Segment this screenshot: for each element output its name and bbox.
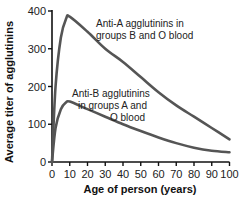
x-tick-label: 30 [99,168,111,180]
x-tick-label: 90 [206,168,218,180]
x-ticks: 0102030405060708090100 [49,162,239,180]
x-tick-label: 80 [188,168,200,180]
y-tick-label: 100 [28,118,46,130]
x-tick-label: 40 [117,168,129,180]
y-axis-title: Average titer of agglutinins [3,21,15,163]
y-tick-label: 0 [40,156,46,168]
x-tick-label: 10 [64,168,76,180]
annotation-anti-b-line1: Anti-B agglutinins [72,88,150,99]
y-tick-label: 200 [28,81,46,93]
y-tick-label: 300 [28,43,46,55]
x-tick-label: 70 [170,168,182,180]
annotation-anti-b-line2: in groups A and [78,100,147,111]
x-tick-label: 50 [135,168,147,180]
agglutinin-titer-chart: 0100200300400 0102030405060708090100 Ant… [0,0,244,204]
x-tick-label: 100 [220,168,238,180]
x-axis-title: Age of person (years) [83,183,196,195]
y-tick-label: 400 [28,5,46,17]
annotation-anti-a-line2: groups B and O blood [96,30,193,41]
y-ticks: 0100200300400 [28,5,52,168]
x-tick-label: 0 [49,168,55,180]
x-tick-label: 20 [81,168,93,180]
annotation-anti-b-line3: O blood [110,112,145,123]
annotation-anti-a-line1: Anti-A agglutinins in [96,18,184,29]
x-tick-label: 60 [152,168,164,180]
